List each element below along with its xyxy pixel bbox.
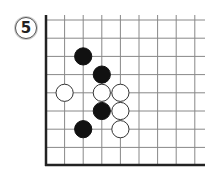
black-stone [75, 121, 92, 138]
white-stone [93, 84, 110, 101]
black-stone [75, 48, 92, 65]
go-board [0, 0, 216, 174]
black-stone [93, 66, 110, 83]
white-stone [56, 84, 73, 101]
white-stone [112, 102, 129, 119]
white-stone [112, 121, 129, 138]
black-stone [93, 102, 110, 119]
white-stone [112, 84, 129, 101]
